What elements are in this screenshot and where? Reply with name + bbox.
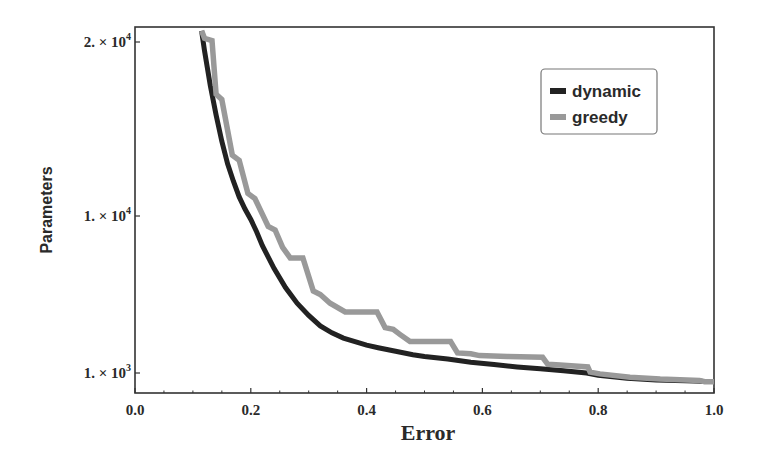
y-tick-label: 2. × 104 [84,31,131,50]
x-axis-title: Error [401,420,456,445]
x-tick-label: 0.0 [126,402,145,418]
x-tick-label: 1.0 [705,402,724,418]
y-tick-label: 1. × 103 [84,362,131,381]
legend-swatch-greedy [550,114,566,120]
x-tick-label: 0.4 [357,402,376,418]
y-axis-title: Parameters [38,166,55,253]
x-tick-label: 0.6 [473,402,492,418]
legend-label-dynamic: dynamic [572,82,641,101]
y-tick-label: 1. × 104 [84,205,131,224]
y-axis-ticks: 1. × 1031. × 1042. × 104 [84,31,140,381]
chart: 0.00.20.40.60.81.0 1. × 1031. × 1042. × … [0,0,761,454]
legend-label-greedy: greedy [572,108,628,127]
x-tick-label: 0.2 [241,402,260,418]
x-tick-label: 0.8 [589,402,608,418]
legend: dynamic greedy [541,69,657,134]
legend-swatch-dynamic [550,88,566,94]
